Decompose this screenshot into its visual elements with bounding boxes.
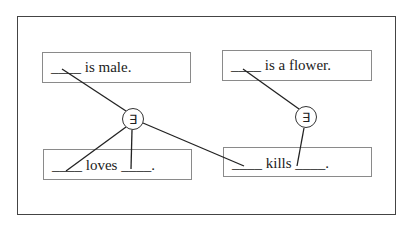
link-loves1-q1 <box>66 127 126 171</box>
link-flower-q2 <box>243 69 299 109</box>
link-kills2-q2 <box>297 128 304 166</box>
link-lines <box>0 0 413 228</box>
existential-quantifier-1: ∃ <box>122 108 144 130</box>
existential-quantifier-2: ∃ <box>295 106 317 128</box>
link-male-q1 <box>62 69 126 111</box>
link-loves2-q1 <box>131 130 132 169</box>
link-kills1-q1 <box>143 123 244 166</box>
